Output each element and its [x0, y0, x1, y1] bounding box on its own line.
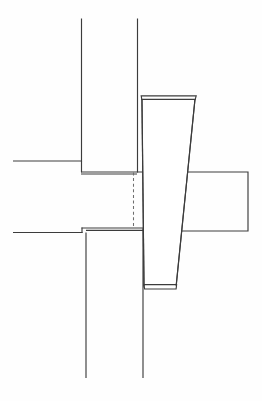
- wedge-bottom-chamfer-fill: [144, 285, 177, 289]
- technical-drawing-canvas: [0, 0, 262, 401]
- line-drawing-svg: [0, 0, 262, 401]
- paper-background: [0, 0, 262, 401]
